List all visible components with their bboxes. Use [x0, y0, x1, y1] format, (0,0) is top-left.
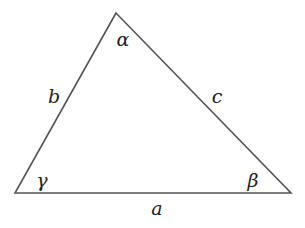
side-a-label: a	[151, 197, 162, 219]
angle-alpha-label: α	[117, 28, 130, 50]
triangle-diagram: α β γ a b c	[0, 0, 305, 228]
side-b-label: b	[48, 85, 60, 107]
side-c-label: c	[212, 85, 223, 107]
angle-beta-label: β	[247, 169, 259, 191]
angle-gamma-label: γ	[36, 169, 48, 191]
